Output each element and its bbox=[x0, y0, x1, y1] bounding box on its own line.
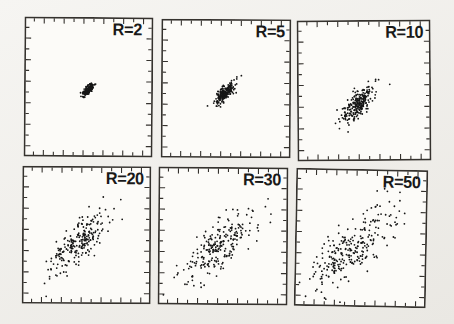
scatter-panel-r5: R=5 bbox=[161, 19, 292, 159]
panel-label-r2: R=2 bbox=[112, 20, 141, 40]
panel-label-r50: R=50 bbox=[383, 172, 421, 192]
scatter-panel-r20: R=20 bbox=[22, 166, 152, 305]
scatter-panel-r2: R=2 bbox=[24, 17, 154, 158]
scatter-panel-grid: R=2 R=5 R=10 R=20 R=30 R=50 bbox=[0, 0, 454, 324]
panel-label-r20: R=20 bbox=[106, 169, 144, 189]
panel-label-r5: R=5 bbox=[255, 22, 284, 42]
scatter-panel-r50: R=50 bbox=[294, 168, 429, 309]
panel-label-r10: R=10 bbox=[386, 23, 424, 43]
panel-label-r30: R=30 bbox=[243, 170, 281, 190]
scatter-panel-r10: R=10 bbox=[297, 20, 432, 162]
scatter-panel-r30: R=30 bbox=[158, 167, 289, 306]
